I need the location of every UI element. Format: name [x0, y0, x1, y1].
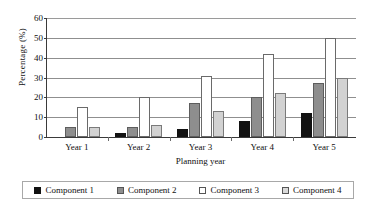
bar-group — [301, 18, 348, 137]
bar-1-4 — [239, 121, 250, 137]
y-tick-label-30: 30 — [34, 73, 43, 82]
bar-3-1 — [77, 107, 88, 137]
x-tick-mark-4 — [293, 137, 294, 141]
bar-1-5 — [301, 113, 312, 137]
x-tick-label-2: Year 2 — [108, 142, 170, 152]
bar-4-2 — [151, 125, 162, 137]
bar-chart-figure: Percentage (%) 0102030405060 Planning ye… — [0, 0, 372, 210]
bar-4-3 — [213, 111, 224, 137]
legend-item-4[interactable]: Component 4 — [282, 185, 342, 195]
x-tick-label-1: Year 1 — [46, 142, 108, 152]
legend-label-2: Component 2 — [128, 185, 177, 195]
y-tick-label-20: 20 — [34, 93, 43, 102]
legend-item-3[interactable]: Component 3 — [199, 185, 259, 195]
y-tick-label-50: 50 — [34, 33, 43, 42]
y-tick-label-60: 60 — [34, 14, 43, 23]
bar-3-5 — [325, 38, 336, 137]
x-tick-mark-2 — [170, 137, 171, 141]
bar-3-4 — [263, 54, 274, 137]
bar-1-2 — [115, 133, 126, 137]
x-tick-label-4: Year 4 — [231, 142, 293, 152]
legend-swatch-icon-4 — [282, 187, 289, 194]
x-axis-line — [46, 137, 356, 138]
x-axis-title: Planning year — [46, 156, 355, 166]
bar-group — [115, 18, 162, 137]
y-tick-label-0: 0 — [39, 133, 44, 142]
bar-4-4 — [275, 93, 286, 137]
bar-4-5 — [337, 78, 348, 138]
x-tick-mark-3 — [231, 137, 232, 141]
bar-2-3 — [189, 103, 200, 137]
legend-swatch-icon-2 — [117, 187, 124, 194]
legend-swatch-icon-1 — [34, 187, 41, 194]
y-tick-label-10: 10 — [34, 113, 43, 122]
y-tick-label-40: 40 — [34, 53, 43, 62]
bar-series-container — [46, 18, 355, 137]
bar-2-2 — [127, 127, 138, 137]
legend-label-1: Component 1 — [45, 185, 94, 195]
bar-2-1 — [65, 127, 76, 137]
legend-swatch-icon-3 — [199, 187, 206, 194]
bar-3-3 — [201, 76, 212, 137]
chart-legend: Component 1Component 2Component 3Compone… — [22, 181, 354, 199]
legend-label-3: Component 3 — [210, 185, 259, 195]
bar-group — [177, 18, 224, 137]
bar-4-1 — [89, 127, 100, 137]
legend-item-2[interactable]: Component 2 — [117, 185, 177, 195]
y-axis-title: Percentage (%) — [17, 0, 27, 117]
x-tick-mark-1 — [108, 137, 109, 141]
bar-group — [239, 18, 286, 137]
bar-2-4 — [251, 97, 262, 137]
bar-group — [53, 18, 100, 137]
x-tick-label-5: Year 5 — [293, 142, 355, 152]
bar-1-3 — [177, 129, 188, 137]
bar-3-2 — [139, 97, 150, 137]
legend-item-1[interactable]: Component 1 — [34, 185, 94, 195]
bar-2-5 — [313, 83, 324, 137]
x-tick-label-3: Year 3 — [170, 142, 232, 152]
legend-label-4: Component 4 — [293, 185, 342, 195]
